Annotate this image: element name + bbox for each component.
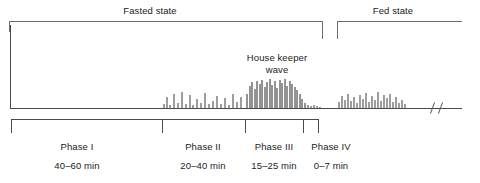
contraction-spike [208,104,210,108]
contraction-spike [204,93,206,108]
contraction-spike [228,105,230,108]
contraction-spike [189,95,191,108]
contraction-spike [196,99,198,108]
contraction-spike [383,95,385,108]
contraction-spike [313,105,315,108]
contraction-spike [350,101,352,108]
contraction-spike [185,104,187,108]
phase-bracket-tick-end [318,120,319,133]
contraction-spike [386,98,388,108]
contraction-spike [377,92,379,108]
contraction-spike [307,105,309,108]
contraction-spike [374,100,376,108]
contraction-spike [192,105,194,108]
phase-divider-1-2 [162,120,163,133]
contraction-spike [389,94,391,108]
contraction-spike [177,103,179,108]
phase-1-name: Phase I [27,141,127,152]
contraction-spike [344,100,346,108]
contraction-spike [395,97,397,108]
contraction-spike [166,97,168,108]
contraction-spike [173,94,175,108]
contraction-spike [368,102,370,108]
contraction-spike [216,96,218,108]
contraction-spike [316,106,318,108]
contraction-spike [392,102,394,108]
manometry-trace [0,0,480,183]
contraction-spike [310,106,312,108]
contraction-spike [319,107,321,108]
contraction-spike [359,95,361,108]
contraction-spike [365,93,367,108]
phase-divider-2-3 [245,120,246,133]
mmc-diagram: Fasted state Fed state House keeper wave… [0,0,480,183]
contraction-spike [169,105,171,108]
contraction-spike [398,103,400,108]
contraction-spike [353,97,355,108]
phase-4-duration: 0–7 min [291,160,371,171]
contraction-spike [220,104,222,108]
phase-4-name: Phase IV [291,141,371,152]
contraction-spike [404,104,406,108]
phase-bracket-tick-start [11,120,12,133]
contraction-spike [401,100,403,108]
contraction-spike [232,94,234,108]
contraction-spike [347,94,349,108]
contraction-spike [181,92,183,108]
contraction-spike [163,104,165,108]
contraction-spike [212,101,214,108]
contraction-spike [240,97,242,108]
contraction-spike [224,98,226,108]
contraction-spike [362,99,364,108]
contraction-spike [338,102,340,108]
phase-bracket [11,119,319,120]
contraction-spike [380,101,382,108]
contraction-spike [371,96,373,108]
contraction-spike [236,102,238,108]
contraction-spike [341,96,343,108]
phase-divider-3-4 [303,120,304,133]
phase-1-duration: 40–60 min [27,160,127,171]
contraction-spike [200,103,202,108]
contraction-spike [356,103,358,108]
